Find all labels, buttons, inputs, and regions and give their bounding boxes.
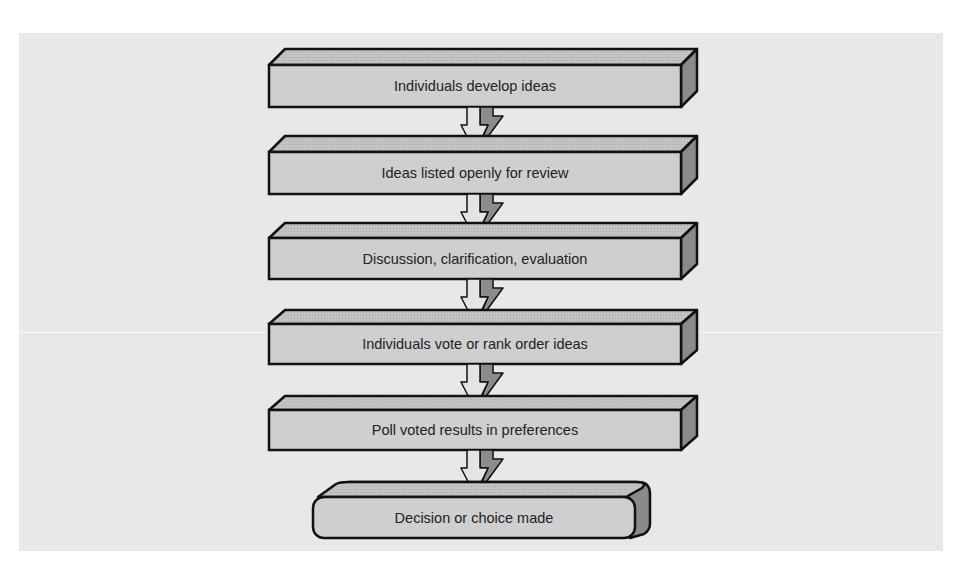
step-label-4: Individuals vote or rank order ideas (269, 324, 681, 364)
step-label-2: Ideas listed openly for review (269, 152, 681, 194)
step-label-3: Discussion, clarification, evaluation (269, 238, 681, 279)
step-label-5: Poll voted results in preferences (269, 410, 681, 450)
step-label-6: Decision or choice made (313, 497, 635, 538)
step-label-1: Individuals develop ideas (269, 65, 681, 107)
